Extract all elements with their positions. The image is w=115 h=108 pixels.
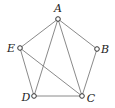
edge-a-d bbox=[34, 19, 58, 96]
graph-diagram: ABCDE bbox=[0, 0, 115, 108]
edge-a-c bbox=[58, 19, 82, 96]
vertex-label-a: A bbox=[53, 2, 62, 15]
edge-e-c bbox=[20, 48, 82, 96]
vertex-label-b: B bbox=[100, 43, 109, 56]
vertex-c bbox=[80, 94, 85, 99]
vertex-label-c: C bbox=[87, 92, 96, 105]
vertex-a bbox=[56, 17, 61, 22]
vertex-label-d: D bbox=[21, 91, 31, 104]
vertex-b bbox=[95, 47, 100, 52]
edge-d-e bbox=[20, 48, 34, 96]
vertices-group bbox=[18, 17, 100, 99]
edge-a-b bbox=[58, 19, 97, 49]
edge-e-a bbox=[20, 19, 58, 48]
edge-b-c bbox=[82, 49, 97, 96]
vertex-d bbox=[32, 94, 37, 99]
edges-group bbox=[20, 19, 97, 96]
vertex-e bbox=[18, 46, 23, 51]
vertex-label-e: E bbox=[6, 42, 15, 55]
